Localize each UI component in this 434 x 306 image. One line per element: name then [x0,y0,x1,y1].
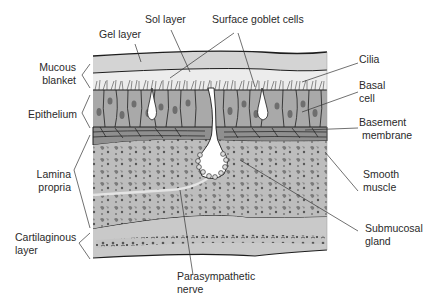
airway-wall-diagram [0,0,434,306]
label-lamina-propria-line1: Lamina [20,168,71,181]
label-basement-membrane-line1: Basement [359,116,412,129]
label-parasympathetic-nerve-line1: Parasympathetic [177,270,255,283]
label-parasympathetic-nerve: Parasympathetic nerve [177,270,255,296]
label-mucous-blanket-line2: blanket [20,74,76,87]
label-basement-membrane: Basement membrane [359,116,412,142]
label-cilia: Cilia [359,53,379,66]
label-basement-membrane-line2: membrane [359,129,412,142]
label-mucous-blanket-line1: Mucous [20,61,76,74]
label-parasympathetic-nerve-line2: nerve [177,283,255,296]
label-submucosal-gland-line2: gland [365,235,423,248]
label-smooth-muscle: Smooth muscle [363,168,399,194]
label-surface-goblet-cells: Surface goblet cells [212,13,304,26]
label-cartilaginous-layer-line2: layer [15,244,76,257]
label-mucous-blanket: Mucous blanket [20,61,76,87]
label-lamina-propria-line2: propria [20,181,71,194]
label-gel-layer: Gel layer [99,28,141,41]
label-smooth-muscle-line2: muscle [363,181,399,194]
label-epithelium: Epithelium [10,108,77,121]
label-submucosal-gland: Submucosal gland [365,222,423,248]
label-cartilaginous-layer-line1: Cartilaginous [15,231,76,244]
label-submucosal-gland-line1: Submucosal [365,222,423,235]
label-sol-layer: Sol layer [145,13,186,26]
label-basal-cell-line1: Basal [359,79,385,92]
label-cartilaginous-layer: Cartilaginous layer [15,231,76,257]
label-basal-cell-line2: cell [359,92,385,105]
label-smooth-muscle-line1: Smooth [363,168,399,181]
label-lamina-propria: Lamina propria [20,168,71,194]
label-basal-cell: Basal cell [359,79,385,105]
